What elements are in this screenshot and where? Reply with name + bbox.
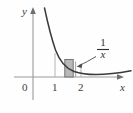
origin-label: 0 <box>22 82 28 93</box>
fraction-numerator: 1 <box>96 37 110 49</box>
x-tick-label-1: 1 <box>52 82 58 93</box>
y-axis-arrowhead <box>30 7 36 14</box>
graph-figure: y x 0 1 2 1 x <box>0 0 133 113</box>
y-axis-label: y <box>22 6 27 17</box>
x-axis-label: x <box>120 82 125 93</box>
x-axis-arrowhead <box>117 74 124 80</box>
curve-one-over-x <box>45 8 132 75</box>
fraction-denominator: x <box>96 49 110 61</box>
leader-arrowhead <box>77 64 83 68</box>
graph-canvas <box>0 0 133 113</box>
x-tick-label-2: 2 <box>78 82 84 93</box>
function-label-one-over-x: 1 x <box>96 37 110 60</box>
